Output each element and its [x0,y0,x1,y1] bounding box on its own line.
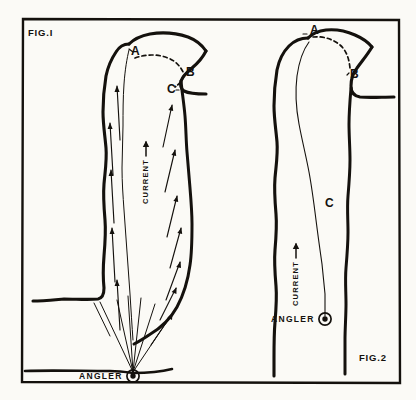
flow-arrow-icon [109,170,114,224]
fig1-cast-line-fan [100,296,172,372]
flow-arrow-icon [110,228,115,283]
flow-arrow-icon [151,314,173,346]
fig1-top-headland [129,33,206,51]
fig1-current-arrow-icon [143,141,149,156]
figure-page: FIG.I A B C CURRENT ANGLER A B C CURRENT… [0,0,416,400]
flow-arrow-icon [165,150,176,193]
fig2-pool-right-edge [345,88,351,374]
fig2-angler-label: ANGLER [271,315,315,324]
fig1-left-flow-arrows [108,86,120,331]
fig1-angler-label: ANGLER [79,372,123,381]
fig2-point-label-a: A [310,24,319,36]
flow-arrow-icon [167,196,178,238]
fig2-title: FIG.2 [359,353,387,363]
fig1-current-label: CURRENT [142,159,150,204]
flow-arrow-icon [108,123,113,176]
fig2-left-bank-shoreline [274,38,308,376]
fig1-drift-arc-a-to-b [135,55,184,74]
fig2-drift-arc-a-to-b [313,37,350,68]
fig2-point-leaders [303,34,349,75]
fig1-point-label-c: C [167,83,176,95]
fig2-current-label: CURRENT [292,261,300,306]
fig1-cast-line [100,302,133,372]
fig2-point-label-b: B [350,68,359,80]
diagram-canvas [0,0,416,400]
flow-arrow-icon [115,280,120,331]
flow-arrow-icon [115,86,121,141]
fig1-point-label-a: A [131,45,140,57]
fig1-left-bank-shoreline [33,44,129,301]
fig1-title: FIG.I [28,28,53,38]
flow-arrow-icon [163,105,173,148]
fig1-channel-line [122,50,133,340]
fig1-bank-tick [94,303,110,336]
fig1-group [25,33,206,382]
fig2-drift-line [296,42,325,316]
outer-frame [22,19,400,383]
fig1-pool-right-edge [134,81,192,344]
fig2-current-arrow-icon [293,243,299,258]
fig2-point-label-c: C [325,197,334,209]
fig1-point-label-b: B [186,66,195,78]
